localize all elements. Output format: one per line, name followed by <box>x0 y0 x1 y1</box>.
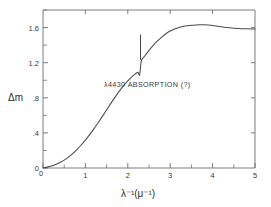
x-tick-label-5: 5 <box>253 171 257 180</box>
extinction-curve-line <box>43 25 255 168</box>
x-axis-title: λ⁻¹(μ⁻¹) <box>121 188 155 199</box>
x-tick-label-4: 4 <box>211 171 215 180</box>
y-tick-labels: 0 .4 .8 1.2 1.6 <box>29 24 39 173</box>
y-tick-label-1-2: 1.2 <box>29 59 39 68</box>
x-tick-label-2: 2 <box>126 171 130 180</box>
x-tick-labels: 0 1 2 3 4 5 <box>39 169 257 180</box>
y-tick-label-0-8: .8 <box>33 94 39 103</box>
extinction-curve-figure: 0 .4 .8 1.2 1.6 0 1 2 3 4 5 Δm λ⁻¹(μ⁻¹) … <box>0 0 271 207</box>
plot-canvas: 0 .4 .8 1.2 1.6 0 1 2 3 4 5 Δm λ⁻¹(μ⁻¹) … <box>0 0 271 207</box>
lambda-4430-annotation: λ4430 ABSORPTION (?) <box>104 80 191 89</box>
y-tick-label-0-4: .4 <box>33 129 39 138</box>
y-axis-minor-ticks <box>43 10 47 150</box>
top-axis-ticks <box>85 10 212 14</box>
right-axis-ticks <box>251 28 255 133</box>
y-tick-label-1-6: 1.6 <box>29 24 39 33</box>
x-axis-minor-ticks <box>64 165 234 169</box>
axis-frame <box>43 10 255 168</box>
x-tick-label-0: 0 <box>39 169 43 178</box>
y-axis-title: Δm <box>8 92 23 103</box>
x-tick-label-1: 1 <box>83 171 87 180</box>
x-tick-label-3: 3 <box>168 171 172 180</box>
y-axis-major-ticks <box>43 28 48 168</box>
